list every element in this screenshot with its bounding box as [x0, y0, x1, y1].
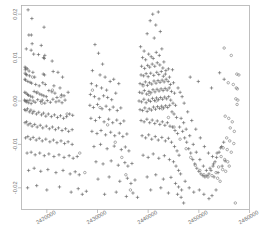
data-point-plus — [162, 177, 165, 180]
data-point-plus — [211, 164, 214, 167]
data-point-plus — [29, 137, 32, 140]
data-point-plus — [69, 190, 72, 193]
data-point-plus — [97, 52, 100, 55]
data-point-plus — [157, 138, 160, 141]
x-axis-tick-labels: 24200002430000244000024500002460000 — [35, 209, 260, 225]
data-point-plus — [62, 156, 65, 159]
data-point-plus — [42, 111, 45, 114]
data-point-plus — [141, 109, 144, 112]
data-point-plus — [117, 164, 120, 167]
data-point-plus — [139, 45, 142, 48]
data-point-plus — [94, 119, 97, 122]
data-point-plus — [167, 191, 170, 194]
data-point-plus — [183, 180, 186, 183]
data-point-plus — [67, 154, 70, 157]
data-point-plus — [152, 79, 155, 82]
data-point-plus — [52, 84, 55, 87]
data-point-plus — [91, 69, 94, 72]
data-point-plus — [130, 162, 133, 165]
data-point-plus — [198, 188, 201, 191]
data-point-plus — [159, 186, 162, 189]
data-point-plus — [45, 95, 48, 98]
data-point-circle — [179, 138, 182, 141]
data-point-plus — [174, 164, 177, 167]
data-point-plus — [89, 117, 92, 120]
data-point-circle — [129, 189, 132, 192]
data-point-circle — [226, 148, 229, 151]
data-point-plus — [153, 90, 156, 93]
data-point-plus — [172, 112, 175, 115]
data-point-circle — [79, 152, 82, 155]
data-point-plus — [164, 78, 167, 81]
data-point-plus — [76, 155, 79, 158]
data-point-plus — [199, 172, 202, 175]
data-point-plus — [125, 132, 128, 135]
data-point-plus — [38, 84, 41, 87]
data-point-plus — [60, 93, 63, 96]
data-point-plus — [197, 80, 200, 83]
data-point-plus — [207, 197, 210, 200]
x-tick-label: 2460000 — [238, 209, 260, 225]
data-point-plus — [115, 190, 118, 193]
data-point-plus — [155, 51, 158, 54]
data-point-plus — [45, 124, 48, 127]
data-point-plus — [136, 196, 139, 199]
data-point-plus — [36, 125, 39, 128]
data-point-plus — [27, 69, 30, 72]
data-point-plus — [176, 132, 179, 135]
data-point-plus — [156, 61, 159, 64]
data-point-plus — [32, 110, 35, 113]
data-point-circle — [148, 93, 151, 96]
data-point-plus — [61, 169, 64, 172]
data-point-plus — [99, 129, 102, 132]
data-point-circle — [232, 83, 235, 86]
data-point-plus — [23, 98, 26, 101]
data-point-plus — [199, 136, 202, 139]
data-point-circle — [223, 158, 226, 161]
data-point-plus — [212, 162, 215, 165]
data-point-plus — [103, 75, 106, 78]
data-point-plus — [111, 121, 114, 124]
data-point-plus — [207, 172, 210, 175]
x-tick-label: 2450000 — [187, 209, 209, 225]
data-point-plus — [146, 84, 149, 87]
data-point-plus — [41, 139, 44, 142]
data-point-plus — [183, 136, 186, 139]
data-point-plus — [222, 78, 225, 81]
data-point-plus — [26, 8, 29, 11]
data-point-plus — [168, 124, 171, 127]
data-point-plus — [58, 185, 61, 188]
data-point-plus — [172, 81, 175, 84]
data-point-plus — [107, 118, 110, 121]
data-point-circle — [230, 54, 233, 57]
data-point-plus — [47, 89, 50, 92]
data-point-plus — [161, 98, 164, 101]
data-point-plus — [144, 58, 147, 61]
data-point-plus — [203, 145, 206, 148]
data-point-plus — [169, 176, 172, 179]
data-point-plus — [120, 148, 123, 151]
data-point-plus — [171, 101, 174, 104]
data-point-plus — [179, 172, 182, 175]
data-point-plus — [131, 191, 134, 194]
data-point-plus — [140, 65, 143, 68]
y-tick-label: -0.01 — [12, 138, 18, 151]
data-point-plus — [140, 91, 143, 94]
data-point-plus — [202, 164, 205, 167]
data-point-plus — [50, 90, 53, 93]
data-point-circle — [216, 177, 219, 180]
data-point-plus — [155, 88, 158, 91]
data-point-plus — [180, 95, 183, 98]
data-point-plus — [112, 78, 115, 81]
data-point-plus — [150, 55, 153, 58]
y-tick-label: 0.00 — [12, 96, 18, 107]
data-point-plus — [118, 180, 121, 183]
data-point-plus — [186, 110, 189, 113]
data-point-circle — [36, 91, 39, 94]
data-point-plus — [55, 96, 58, 99]
data-point-plus — [123, 161, 126, 164]
data-point-plus — [112, 105, 115, 108]
data-point-circle — [228, 140, 231, 143]
data-point-plus — [37, 111, 40, 114]
data-point-plus — [138, 82, 141, 85]
